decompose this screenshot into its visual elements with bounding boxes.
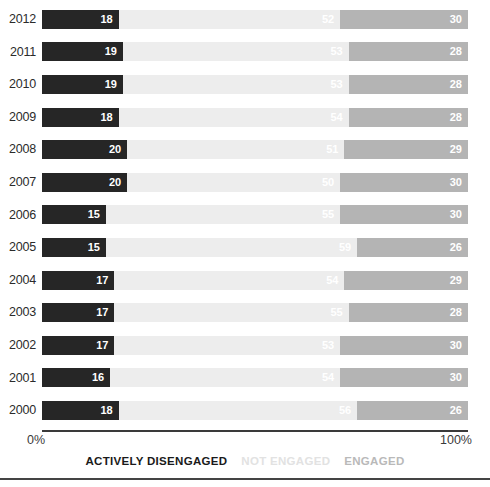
bar-value-label-engaged: 28 [450,79,468,90]
bar-value-label-engaged: 26 [450,405,468,416]
bar-value-label-not-engaged: 51 [326,144,344,155]
bar-row: 2000185626 [0,394,490,427]
x-axis-line [42,430,468,432]
bar-row: 2011195328 [0,36,490,69]
year-axis-label: 2011 [0,46,42,59]
bar-segment-actively-disengaged: 15 [42,205,106,224]
bar-segment-not-engaged: 55 [106,205,340,224]
bar-row: 2009185428 [0,101,490,134]
bar-segment-engaged: 28 [349,108,468,127]
bar-row: 2005155926 [0,231,490,264]
bar-row: 2007205030 [0,166,490,199]
bar-segment-not-engaged: 59 [106,238,357,257]
bar-value-label-actively-disengaged: 18 [100,14,118,25]
bar-segment-engaged: 30 [340,10,468,29]
bar-value-label-not-engaged: 55 [322,209,340,220]
bar-value-label-engaged: 29 [450,275,468,286]
bar-segment-not-engaged: 54 [119,108,349,127]
year-axis-label: 2001 [0,372,42,385]
bar-row: 2012185230 [0,3,490,36]
year-axis-label: 2000 [0,404,42,417]
bar-value-label-not-engaged: 53 [322,340,340,351]
year-axis-label: 2003 [0,306,42,319]
bar-segment-engaged: 30 [340,173,468,192]
bar-track: 185626 [42,401,468,420]
bar-value-label-engaged: 28 [450,307,468,318]
bar-segment-actively-disengaged: 18 [42,401,119,420]
bar-segment-actively-disengaged: 15 [42,238,106,257]
bar-segment-actively-disengaged: 17 [42,271,114,290]
bar-track: 195328 [42,42,468,61]
bar-value-label-actively-disengaged: 18 [100,112,118,123]
bar-segment-engaged: 30 [340,336,468,355]
bar-value-label-actively-disengaged: 16 [92,372,110,383]
bar-segment-actively-disengaged: 20 [42,140,127,159]
bar-segment-engaged: 26 [357,401,468,420]
bar-value-label-actively-disengaged: 18 [100,405,118,416]
bar-value-label-engaged: 28 [450,112,468,123]
bar-track: 185230 [42,10,468,29]
bar-value-label-not-engaged: 54 [322,372,340,383]
bar-value-label-actively-disengaged: 20 [109,177,127,188]
bar-value-label-engaged: 28 [450,46,468,57]
bar-value-label-actively-disengaged: 19 [105,79,123,90]
bar-row: 2002175330 [0,329,490,362]
bar-track: 195328 [42,75,468,94]
bar-value-label-not-engaged: 59 [339,242,357,253]
bar-value-label-engaged: 29 [450,144,468,155]
bar-value-label-engaged: 30 [450,14,468,25]
year-axis-label: 2004 [0,274,42,287]
year-axis-label: 2002 [0,339,42,352]
year-axis-label: 2008 [0,143,42,156]
bar-segment-engaged: 26 [357,238,468,257]
bar-track: 185428 [42,108,468,127]
bar-value-label-actively-disengaged: 20 [109,144,127,155]
bar-value-label-actively-disengaged: 17 [96,307,114,318]
bar-track: 205030 [42,173,468,192]
bar-segment-engaged: 30 [340,205,468,224]
bar-segment-not-engaged: 53 [114,336,340,355]
bar-segment-not-engaged: 55 [114,303,348,322]
bar-value-label-engaged: 30 [450,209,468,220]
bar-segment-not-engaged: 53 [123,42,349,61]
bar-segment-actively-disengaged: 20 [42,173,127,192]
bar-row: 2001165430 [0,362,490,395]
legend-item-actively-disengaged: ACTIVELY DISENGAGED [86,456,228,468]
bar-value-label-not-engaged: 54 [330,112,348,123]
x-axis-max-tick-label: 100% [440,434,472,447]
bar-value-label-not-engaged: 53 [330,79,348,90]
stacked-bar-chart: 2012185230201119532820101953282009185428… [0,0,490,487]
year-axis-label: 2007 [0,176,42,189]
year-axis-label: 2009 [0,111,42,124]
bar-value-label-not-engaged: 50 [322,177,340,188]
bar-segment-actively-disengaged: 18 [42,10,119,29]
bar-track: 165430 [42,368,468,387]
bar-track: 155530 [42,205,468,224]
bar-value-label-not-engaged: 52 [322,14,340,25]
bar-value-label-engaged: 30 [450,340,468,351]
bar-value-label-not-engaged: 55 [330,307,348,318]
bar-segment-engaged: 29 [344,140,468,159]
bar-segment-not-engaged: 54 [110,368,340,387]
x-axis-tick-labels: 0% 100% [0,434,490,452]
bar-value-label-actively-disengaged: 15 [88,209,106,220]
year-axis-label: 2012 [0,13,42,26]
bar-segment-engaged: 28 [349,75,468,94]
bar-row: 2004175429 [0,264,490,297]
bar-track: 155926 [42,238,468,257]
bar-segment-not-engaged: 50 [127,173,340,192]
bar-track: 175429 [42,271,468,290]
bar-segment-not-engaged: 56 [119,401,358,420]
legend-item-engaged: ENGAGED [344,456,404,468]
chart-plot-area: 2012185230201119532820101953282009185428… [0,3,490,427]
bar-value-label-actively-disengaged: 17 [96,340,114,351]
bar-row: 2006155530 [0,199,490,232]
bar-value-label-not-engaged: 54 [326,275,344,286]
chart-legend: ACTIVELY DISENGAGED NOT ENGAGED ENGAGED [0,456,490,468]
bar-segment-not-engaged: 52 [119,10,341,29]
bar-segment-actively-disengaged: 16 [42,368,110,387]
bar-segment-not-engaged: 53 [123,75,349,94]
bar-value-label-engaged: 26 [450,242,468,253]
bar-value-label-actively-disengaged: 15 [88,242,106,253]
bar-segment-actively-disengaged: 19 [42,42,123,61]
